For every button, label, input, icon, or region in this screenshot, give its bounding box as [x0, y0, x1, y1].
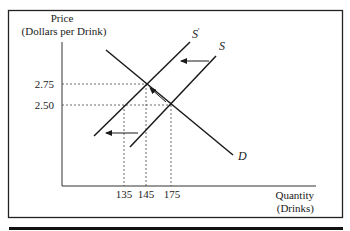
bottom-rule	[9, 227, 343, 230]
y-axis-title: Price	[51, 12, 74, 24]
supply-label: S	[219, 39, 225, 53]
x-tick-145: 145	[138, 188, 155, 200]
shifted-supply-curve	[94, 42, 190, 136]
demand-label: D	[237, 149, 247, 163]
movement-along-demand-arrow	[150, 88, 166, 102]
x-tick-175: 175	[164, 188, 181, 200]
guide-lines	[62, 84, 171, 186]
supply-curve	[130, 56, 216, 147]
shifted-supply-label: S'	[192, 27, 200, 41]
x-tick-135: 135	[116, 188, 133, 200]
x-axis-subtitle: (Drinks)	[277, 202, 315, 215]
y-axis-subtitle: (Dollars per Drink)	[22, 25, 107, 38]
y-tick-250: 2.50	[35, 99, 55, 111]
supply-demand-chart: Price (Dollars per Drink) Quantity (Drin…	[0, 0, 350, 231]
y-tick-275: 2.75	[35, 78, 55, 90]
x-axis-title: Quantity	[276, 189, 315, 201]
demand-curve	[106, 50, 233, 155]
